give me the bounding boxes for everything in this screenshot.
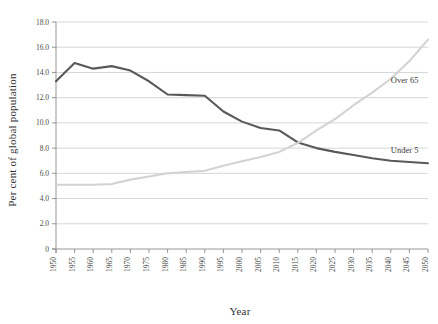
x-tick-label: 1975 <box>142 257 151 272</box>
x-tick-label: 2025 <box>328 257 337 272</box>
x-tick-label: 1960 <box>86 257 95 272</box>
series-annotations: Over 65Under 5 <box>391 75 419 155</box>
x-tick-label: 2020 <box>309 257 318 272</box>
y-tick-label: 18.0 <box>36 18 49 27</box>
line-chart: 02.04.06.08.010.012.014.016.018.0 195019… <box>0 0 438 324</box>
x-tick-label: 2015 <box>291 257 300 272</box>
x-tick-label: 2005 <box>254 257 263 272</box>
x-tick-label: 1985 <box>179 257 188 272</box>
data-series <box>56 40 428 185</box>
x-tick-label: 2030 <box>347 257 356 272</box>
x-axis-title: Year <box>229 305 250 317</box>
y-tick-labels: 02.04.06.08.010.012.014.016.018.0 <box>36 18 56 254</box>
x-tick-label: 1970 <box>123 257 132 272</box>
y-tick-label: 16.0 <box>36 43 49 52</box>
x-tick-label: 2040 <box>384 257 393 272</box>
x-tick-label: 1995 <box>216 257 225 272</box>
x-tick-label: 1950 <box>49 257 58 272</box>
series-label-over-65: Over 65 <box>391 75 419 85</box>
x-tick-label: 2000 <box>235 257 244 272</box>
y-tick-label: 12.0 <box>36 93 49 102</box>
y-tick-label: 10.0 <box>36 118 49 127</box>
x-tick-label: 1990 <box>198 257 207 272</box>
series-line-over-65 <box>56 40 428 185</box>
x-tick-label: 2035 <box>365 257 374 272</box>
x-tick-label: 2010 <box>272 257 281 272</box>
series-label-under-5: Under 5 <box>391 145 419 155</box>
y-axis-title: Per cent of global population <box>6 73 18 207</box>
y-tick-label: 4.0 <box>40 194 50 203</box>
x-tick-label: 1980 <box>161 257 170 272</box>
chart-svg: 02.04.06.08.010.012.014.016.018.0 195019… <box>0 0 438 324</box>
x-tick-label: 2045 <box>402 257 411 272</box>
x-tick-label: 1965 <box>105 257 114 272</box>
y-tick-label: 14.0 <box>36 68 49 77</box>
x-tick-label: 2050 <box>421 257 430 272</box>
y-tick-label: 2.0 <box>40 219 50 228</box>
y-tick-label: 8.0 <box>40 144 50 153</box>
y-tick-label: 6.0 <box>40 169 50 178</box>
x-tick-labels: 1950195519601965197019751980198519901995… <box>49 249 430 272</box>
y-tick-label: 0 <box>45 245 49 254</box>
grid-lines <box>56 22 428 224</box>
x-tick-label: 1955 <box>68 257 77 272</box>
